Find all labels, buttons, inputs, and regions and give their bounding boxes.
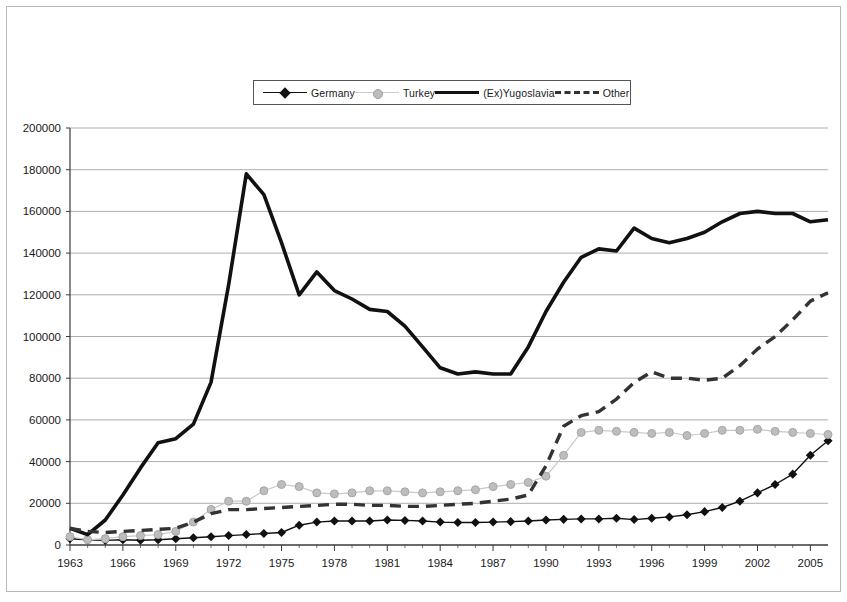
svg-text:20000: 20000 — [29, 497, 61, 509]
data-point-marker — [330, 517, 339, 526]
data-point-marker — [665, 428, 673, 436]
svg-text:1993: 1993 — [586, 557, 612, 569]
data-point-marker — [771, 480, 780, 489]
data-point-marker — [630, 515, 639, 524]
series-line--ex-yugoslavia — [70, 174, 828, 535]
data-point-marker — [295, 483, 303, 491]
data-point-marker — [559, 515, 568, 524]
svg-text:140000: 140000 — [23, 247, 61, 259]
data-point-marker — [471, 486, 479, 494]
svg-text:100000: 100000 — [23, 331, 61, 343]
data-point-marker — [700, 507, 709, 516]
data-point-marker — [789, 428, 797, 436]
data-point-marker — [753, 488, 762, 497]
svg-text:1963: 1963 — [57, 557, 83, 569]
data-point-marker — [560, 451, 568, 459]
data-point-marker — [471, 518, 480, 527]
chart-figure: Germany Turkey (Ex)Yugoslavia Other 0200… — [0, 0, 847, 602]
data-point-marker — [436, 518, 445, 527]
data-point-marker — [683, 432, 691, 440]
svg-text:1984: 1984 — [427, 557, 453, 569]
data-point-marker — [577, 514, 586, 523]
data-point-marker — [119, 533, 127, 541]
data-point-marker — [771, 427, 779, 435]
chart-series-layer — [65, 174, 832, 545]
data-point-marker — [259, 529, 268, 538]
svg-text:1969: 1969 — [163, 557, 189, 569]
data-point-marker — [418, 516, 427, 525]
svg-text:1981: 1981 — [375, 557, 401, 569]
data-point-marker — [348, 489, 356, 497]
data-point-marker — [347, 517, 356, 526]
data-point-marker — [225, 497, 233, 505]
data-point-marker — [154, 531, 162, 539]
data-point-marker — [577, 428, 585, 436]
chart-x-axis-labels: 1963196619691972197519781981198419871990… — [57, 557, 823, 569]
data-point-marker — [242, 530, 251, 539]
data-point-marker — [595, 426, 603, 434]
data-point-marker — [524, 517, 533, 526]
data-point-marker — [507, 481, 515, 489]
svg-text:1966: 1966 — [110, 557, 136, 569]
svg-text:180000: 180000 — [23, 164, 61, 176]
data-point-marker — [400, 516, 409, 525]
data-point-marker — [436, 488, 444, 496]
data-point-marker — [383, 515, 392, 524]
svg-text:1987: 1987 — [480, 557, 506, 569]
data-point-marker — [366, 487, 374, 495]
svg-text:1978: 1978 — [322, 557, 348, 569]
data-point-marker — [101, 535, 109, 543]
data-point-marker — [207, 532, 216, 541]
svg-text:1999: 1999 — [692, 557, 718, 569]
data-point-marker — [824, 430, 832, 438]
series-line-turkey — [70, 429, 828, 540]
data-point-marker — [224, 531, 233, 540]
svg-text:1975: 1975 — [269, 557, 295, 569]
data-point-marker — [330, 490, 338, 498]
data-point-marker — [277, 528, 286, 537]
svg-text:1996: 1996 — [639, 557, 665, 569]
svg-text:2005: 2005 — [798, 557, 824, 569]
data-point-marker — [137, 532, 145, 540]
chart-plot-area: 0200004000060000800001000001200001400001… — [0, 0, 847, 602]
svg-text:60000: 60000 — [29, 414, 61, 426]
data-point-marker — [506, 517, 515, 526]
data-point-marker — [489, 518, 498, 527]
series-line-other — [70, 293, 828, 533]
svg-text:120000: 120000 — [23, 289, 61, 301]
data-point-marker — [489, 483, 497, 491]
data-point-marker — [753, 425, 761, 433]
svg-text:1972: 1972 — [216, 557, 242, 569]
data-point-marker — [312, 518, 321, 527]
data-point-marker — [313, 489, 321, 497]
svg-text:0: 0 — [55, 539, 61, 551]
data-point-marker — [84, 536, 92, 544]
data-point-marker — [189, 533, 198, 542]
data-point-marker — [260, 487, 268, 495]
data-point-marker — [295, 521, 304, 530]
data-point-marker — [401, 488, 409, 496]
data-point-marker — [383, 487, 391, 495]
data-point-marker — [718, 426, 726, 434]
data-point-marker — [630, 428, 638, 436]
data-point-marker — [806, 429, 814, 437]
data-point-marker — [541, 515, 550, 524]
data-point-marker — [682, 510, 691, 519]
data-point-marker — [594, 514, 603, 523]
data-point-marker — [665, 512, 674, 521]
data-point-marker — [718, 503, 727, 512]
data-point-marker — [736, 426, 744, 434]
svg-text:2002: 2002 — [745, 557, 771, 569]
svg-text:200000: 200000 — [23, 122, 61, 134]
chart-x-tickmarks — [70, 545, 810, 551]
data-point-marker — [453, 518, 462, 527]
data-point-marker — [419, 489, 427, 497]
svg-text:80000: 80000 — [29, 372, 61, 384]
data-point-marker — [648, 429, 656, 437]
data-point-marker — [524, 478, 532, 486]
data-point-marker — [612, 514, 621, 523]
data-point-marker — [242, 497, 250, 505]
svg-text:40000: 40000 — [29, 456, 61, 468]
data-point-marker — [735, 497, 744, 506]
data-point-marker — [365, 516, 374, 525]
